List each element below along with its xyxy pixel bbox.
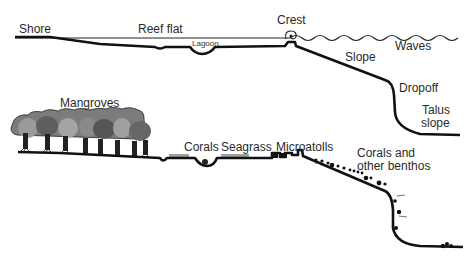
coral-icon xyxy=(202,159,208,165)
label-dropoff: Dropoff xyxy=(399,82,438,95)
label-seagrass: Seagrass xyxy=(221,141,272,154)
mangroves-illustration xyxy=(11,108,151,159)
label-microatolls: Microatolls xyxy=(276,141,333,154)
label-corals: Corals xyxy=(184,141,219,154)
label-mangroves: Mangroves xyxy=(60,97,119,110)
label-reef-flat: Reef flat xyxy=(138,23,183,36)
label-talus-line2: slope xyxy=(421,117,450,130)
label-lagoon: Lagoon xyxy=(192,39,219,48)
label-slope: Slope xyxy=(345,51,376,64)
label-benthos-line2: other benthos xyxy=(357,160,430,173)
waves-line xyxy=(290,36,458,41)
label-waves: Waves xyxy=(395,40,431,53)
label-shore: Shore xyxy=(19,23,51,36)
label-crest: Crest xyxy=(277,14,306,27)
